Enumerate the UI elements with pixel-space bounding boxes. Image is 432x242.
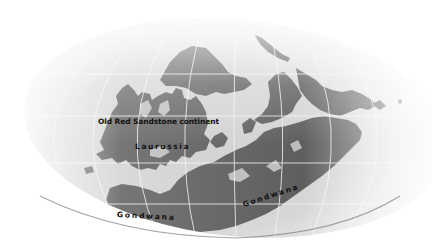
label-old-red-sandstone-continent: Old Red Sandstone continent [98, 117, 219, 126]
label-laurussia: Laurussia [135, 142, 190, 151]
